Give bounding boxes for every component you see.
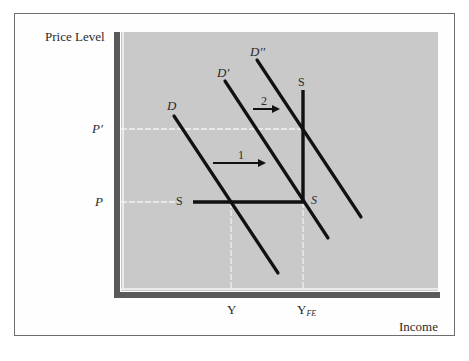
label-s-left: S (176, 195, 183, 207)
x-axis-label: Income (399, 320, 438, 333)
label-s-corner: S (311, 194, 317, 206)
y-axis (114, 32, 120, 298)
tick-label-yfe: YFE (297, 303, 316, 318)
tick-label-yfe-sub: FE (306, 309, 316, 318)
label-d: D (167, 99, 176, 112)
x-axis (114, 292, 440, 298)
tick-label-p-prime: P' (92, 122, 103, 135)
tick-label-yfe-main: Y (297, 302, 306, 317)
label-d-double-prime: D'' (250, 45, 265, 58)
arrow-label-2: 2 (261, 95, 267, 107)
arrow-label-1: 1 (238, 149, 244, 161)
label-d-prime: D' (217, 66, 229, 79)
label-s-top: S (298, 76, 305, 88)
tick-label-y: Y (227, 303, 236, 316)
y-axis-label: Price Level (45, 30, 105, 43)
tick-label-p: P (95, 195, 103, 208)
